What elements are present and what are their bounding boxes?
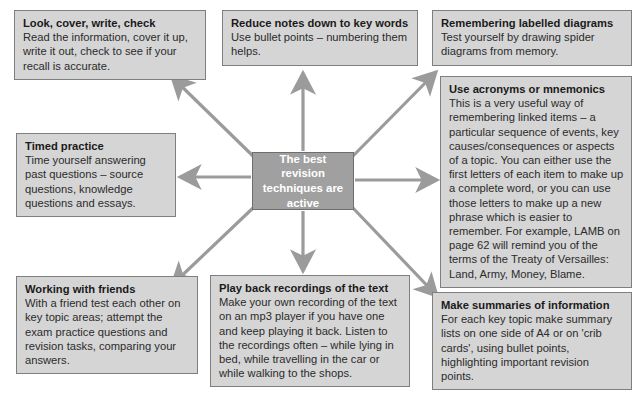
node-body: Use bullet points – numbering them helps… xyxy=(231,30,410,58)
node-title: Timed practice xyxy=(25,139,168,153)
node-body: This is a very useful way of remembering… xyxy=(449,96,624,281)
node-body: Read the information, cover it up, write… xyxy=(23,30,198,73)
node-title: Use acronyms or mnemonics xyxy=(449,82,624,96)
center-node-label: The best revision techniques are active xyxy=(259,152,347,210)
node-title: Working with friends xyxy=(25,282,190,296)
diagram-canvas: Look, cover, write, check Read the infor… xyxy=(0,0,641,407)
node-remembering-labelled-diagrams[interactable]: Remembering labelled diagrams Test yours… xyxy=(432,10,632,66)
connector-to-friends xyxy=(172,208,253,285)
node-play-back-recordings[interactable]: Play back recordings of the text Make yo… xyxy=(210,275,410,387)
node-title: Reduce notes down to key words xyxy=(231,16,410,30)
connector-to-look xyxy=(172,77,253,156)
node-body: Make your own recording of the text on a… xyxy=(219,295,402,380)
node-title: Remembering labelled diagrams xyxy=(441,16,624,30)
node-reduce-notes[interactable]: Reduce notes down to key words Use bulle… xyxy=(222,10,418,66)
node-body: Time yourself answering past questions –… xyxy=(25,153,168,210)
node-make-summaries-of-information[interactable]: Make summaries of information For each k… xyxy=(432,292,632,390)
node-body: For each key topic make summary lists on… xyxy=(441,312,624,383)
node-title: Look, cover, write, check xyxy=(23,16,198,30)
node-use-acronyms-or-mnemonics[interactable]: Use acronyms or mnemonics This is a very… xyxy=(440,76,632,288)
node-working-with-friends[interactable]: Working with friends With a friend test … xyxy=(16,276,198,374)
node-body: Test yourself by drawing spider diagrams… xyxy=(441,30,624,58)
node-body: With a friend test each other on key top… xyxy=(25,296,190,367)
node-title: Make summaries of information xyxy=(441,298,624,312)
center-node-best-revision-techniques[interactable]: The best revision techniques are active xyxy=(252,152,354,210)
connector-to-diagrams xyxy=(353,72,436,156)
node-look-cover-write-check[interactable]: Look, cover, write, check Read the infor… xyxy=(14,10,206,80)
node-title: Play back recordings of the text xyxy=(219,281,402,295)
node-timed-practice[interactable]: Timed practice Time yourself answering p… xyxy=(16,133,176,217)
